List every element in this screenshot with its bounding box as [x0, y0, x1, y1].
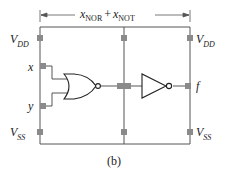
input-x-label: x	[27, 60, 34, 74]
pin-mid	[117, 83, 131, 89]
vss-left-label: VSS	[10, 125, 25, 142]
dimension-label: xNOR+xNOT	[79, 7, 135, 23]
vdd-right-label: VDD	[196, 32, 215, 49]
pin-vdd-right	[187, 35, 193, 41]
layout-diagram: xNOR+xNOT VDD VDD x y f VSS VSS (b)	[0, 0, 228, 180]
figure-caption: (b)	[107, 154, 121, 168]
pin-x	[40, 63, 46, 69]
pin-vdd-mid	[121, 35, 127, 41]
pin-vss-mid	[121, 129, 127, 135]
pin-y	[40, 103, 46, 109]
not-gate	[142, 74, 172, 98]
input-y-label: y	[27, 99, 34, 113]
pin-vss-left	[37, 129, 43, 135]
pin-vss-right	[187, 129, 193, 135]
pin-f	[185, 83, 191, 89]
pin-vdd-left	[37, 35, 43, 41]
vdd-left-label: VDD	[10, 32, 29, 49]
vss-right-label: VSS	[196, 125, 211, 142]
output-f-label: f	[196, 79, 201, 93]
nor-gate	[64, 74, 100, 99]
